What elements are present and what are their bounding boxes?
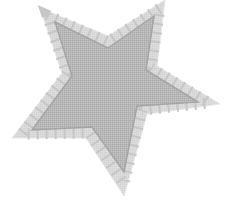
canvas <box>0 0 225 206</box>
star-illustration <box>0 0 225 206</box>
